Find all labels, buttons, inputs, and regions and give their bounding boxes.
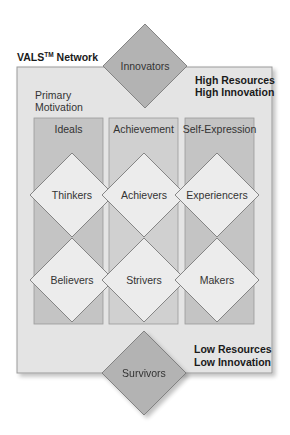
- segment-label: Makers: [200, 274, 234, 286]
- vals-network-diagram: Ideals Achievement Self-Expression Belie…: [0, 0, 290, 435]
- segment-label: Achievers: [121, 189, 167, 201]
- segment-label: Survivors: [122, 367, 166, 379]
- low-innovation-label: Low Innovation: [194, 356, 271, 368]
- low-resources-label: Low Resources: [194, 343, 272, 355]
- segment-label: Experiencers: [186, 189, 247, 201]
- segment-label: Innovators: [120, 60, 169, 72]
- primary-motivation-label-line2: Motivation: [35, 101, 83, 113]
- high-innovation-label: High Innovation: [195, 86, 274, 98]
- column-header-achievement: Achievement: [113, 123, 174, 135]
- primary-motivation-label: Primary: [35, 89, 72, 101]
- column-header-ideals: Ideals: [54, 123, 82, 135]
- high-resources-label: High Resources: [195, 74, 275, 86]
- segment-label: Strivers: [126, 274, 162, 286]
- diagram-title: VALSTM Network: [17, 51, 98, 63]
- segment-label: Believers: [50, 274, 93, 286]
- segment-label: Thinkers: [52, 189, 92, 201]
- column-header-self-expression: Self-Expression: [183, 123, 257, 135]
